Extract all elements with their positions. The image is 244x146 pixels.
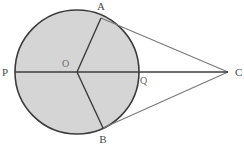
point-label-b: B: [99, 133, 106, 145]
geometry-figure: A B C O P Q: [0, 0, 244, 146]
point-label-p: P: [2, 66, 8, 78]
point-label-c: C: [235, 66, 242, 78]
geometry-canvas: A B C O P Q: [0, 0, 244, 146]
point-label-a: A: [97, 0, 105, 12]
point-label-q: Q: [140, 75, 148, 86]
point-label-o: O: [62, 58, 69, 69]
